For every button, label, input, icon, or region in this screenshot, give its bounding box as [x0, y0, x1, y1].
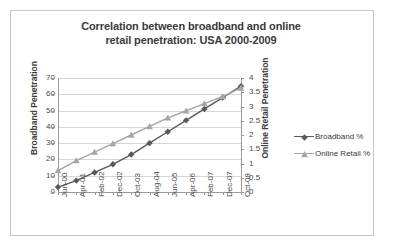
legend-label: Online Retail %	[315, 149, 370, 158]
series-marker	[201, 106, 207, 112]
y-axis-left-tick-mark	[52, 176, 55, 177]
legend-item[interactable]: Broadband %	[294, 128, 384, 145]
x-axis-tick-mark	[241, 192, 242, 195]
x-axis-tick-label: Jun-00	[61, 173, 69, 197]
y-axis-right-line	[241, 78, 242, 193]
chart-title-line-2: retail penetration: USA 2000-2009	[41, 33, 341, 47]
x-axis-tick-label: Aug-04	[153, 171, 161, 197]
x-axis-tick-mark	[150, 192, 151, 195]
y-axis-right-tick-label: 3.5	[249, 88, 260, 96]
y-axis-right-ticks: 00.511.522.533.54	[243, 11, 265, 192]
y-axis-left-tick-mark	[52, 111, 55, 112]
series-line	[58, 88, 241, 171]
y-axis-right-tick-label: 2.5	[249, 117, 260, 125]
series-marker	[146, 140, 152, 146]
y-axis-left-tick-mark	[52, 159, 55, 160]
y-axis-left-tick-mark	[52, 127, 55, 128]
legend-item[interactable]: Online Retail %	[294, 145, 384, 162]
y-axis-right-tick-label: 3	[249, 103, 253, 111]
x-axis-tick-mark	[168, 192, 169, 195]
chart-container: Correlation between broadband and online…	[10, 10, 374, 236]
chart-title-line-1: Correlation between broadband and online	[41, 19, 341, 33]
x-axis-tick-mark	[58, 192, 59, 195]
x-axis-tick-mark	[95, 192, 96, 195]
x-axis-tick-mark	[113, 192, 114, 195]
x-axis-tick-label: Feb-02	[98, 172, 106, 197]
x-axis-tick-label: Oct-03	[134, 173, 142, 197]
legend-label: Broadband %	[315, 132, 363, 141]
x-axis-tick-label: Apr-01	[79, 173, 87, 197]
x-axis-tick-label: Dec-02	[116, 171, 124, 197]
y-axis-right-tick-label: 1.5	[249, 145, 260, 153]
series-marker	[128, 151, 134, 157]
x-axis-tick-mark	[223, 192, 224, 195]
x-axis-tick-label: Apr-06	[189, 173, 197, 197]
y-axis-left-tick-mark	[52, 143, 55, 144]
chart-title: Correlation between broadband and online…	[41, 19, 341, 47]
x-axis-tick-label: Dec-07	[226, 171, 234, 197]
triangle-marker-icon	[294, 149, 314, 159]
x-axis-tick-label: Jun-05	[171, 173, 179, 197]
series-marker	[183, 117, 189, 123]
y-axis-left-tick-mark	[52, 94, 55, 95]
diamond-marker-icon	[294, 132, 314, 142]
series-marker	[110, 161, 116, 167]
y-axis-left-ticks: 010203040506070	[31, 11, 55, 192]
series-marker	[165, 129, 171, 135]
y-axis-right-tick-label: 4	[249, 74, 253, 82]
x-axis-tick-label: Feb-07	[207, 172, 215, 197]
x-axis-tick-label: Oct-08	[244, 173, 252, 197]
y-axis-right-tick-label: 2	[249, 131, 253, 139]
chart-legend: Broadband %Online Retail %	[294, 128, 384, 162]
y-axis-right-tick-label: 1	[249, 160, 253, 168]
y-axis-left-tick-mark	[52, 192, 55, 193]
y-axis-left-tick-mark	[52, 78, 55, 79]
x-axis-tick-mark	[186, 192, 187, 195]
